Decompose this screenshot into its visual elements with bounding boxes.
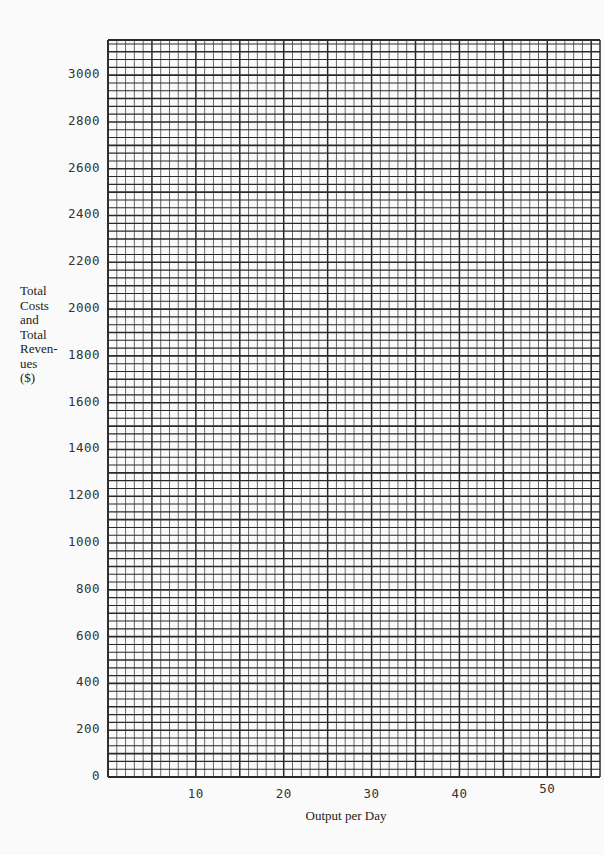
y-tick-label: 1200 <box>40 487 100 502</box>
x-axis-title: Output per Day <box>0 808 604 824</box>
y-tick-label: 2200 <box>40 253 100 268</box>
x-tick-label: 10 <box>176 786 216 801</box>
x-tick-label: 40 <box>439 786 479 801</box>
y-tick-label: 800 <box>40 581 100 596</box>
x-tick-label: 50 <box>527 781 567 796</box>
y-tick-label: 2000 <box>40 300 100 315</box>
y-tick-label: 2800 <box>40 113 100 128</box>
y-tick-label: 200 <box>40 721 100 736</box>
y-tick-label: 600 <box>40 628 100 643</box>
y-tick-label: 1000 <box>40 534 100 549</box>
x-tick-label: 20 <box>264 786 304 801</box>
y-tick-label: 1600 <box>40 394 100 409</box>
x-tick-label: 30 <box>352 786 392 801</box>
y-tick-label: 3000 <box>40 66 100 81</box>
y-tick-label: 0 <box>40 768 100 783</box>
y-tick-label: 2600 <box>40 160 100 175</box>
y-tick-label: 1800 <box>40 347 100 362</box>
y-tick-label: 2400 <box>40 206 100 221</box>
y-tick-label: 400 <box>40 674 100 689</box>
y-tick-label: 1400 <box>40 440 100 455</box>
